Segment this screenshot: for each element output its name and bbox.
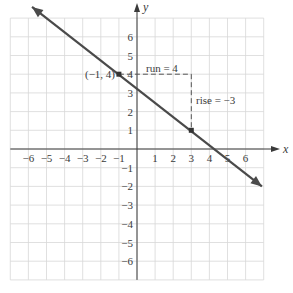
coordinate-plane: −6−5−4−3−2−1123456654321−1−2−3−4−5−6 x y… — [0, 0, 293, 293]
y-tick-label: −3 — [121, 199, 133, 211]
y-tick-label: 2 — [128, 106, 134, 118]
data-point — [189, 128, 194, 133]
y-tick-label: −4 — [121, 218, 133, 230]
y-tick-label: −2 — [121, 180, 133, 192]
x-axis-label: x — [282, 142, 289, 156]
x-tick-label: 2 — [170, 152, 176, 164]
run-label: run = 4 — [146, 62, 178, 74]
y-tick-label: 3 — [128, 87, 134, 99]
x-tick-label: 3 — [189, 152, 195, 164]
x-tick-label: −5 — [41, 152, 53, 164]
y-axis-arrow-icon — [134, 3, 140, 12]
x-tick-label: −3 — [77, 152, 89, 164]
x-tick-label: 4 — [207, 152, 213, 164]
y-tick-label: −6 — [121, 255, 133, 267]
x-tick-label: −6 — [23, 152, 35, 164]
x-tick-label: −2 — [95, 152, 107, 164]
y-tick-label: −5 — [121, 237, 133, 249]
data-point — [116, 72, 121, 77]
x-tick-label: 1 — [152, 152, 158, 164]
x-tick-label: −4 — [59, 152, 71, 164]
x-axis-arrow-icon — [271, 146, 280, 152]
axes — [10, 3, 280, 280]
y-axis-label: y — [142, 0, 149, 14]
rise-label: rise = −3 — [196, 94, 236, 106]
y-tick-label: 6 — [128, 31, 134, 43]
y-tick-label: 5 — [128, 50, 134, 62]
y-tick-label: −1 — [121, 162, 133, 174]
x-tick-label: 6 — [243, 152, 249, 164]
y-tick-label: 1 — [128, 124, 134, 136]
point-label: (−1, 4) — [85, 68, 115, 81]
